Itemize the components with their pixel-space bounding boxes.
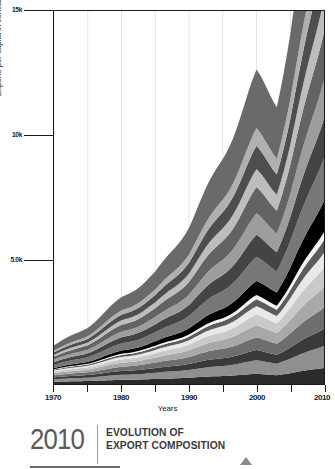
x-tick-1985 bbox=[155, 385, 156, 392]
triangle-up-icon bbox=[240, 457, 252, 465]
x-tick-label-1970: 1970 bbox=[33, 393, 73, 402]
x-axis-title: Years bbox=[0, 404, 335, 413]
x-tick-label-2000: 2000 bbox=[237, 393, 277, 402]
caption-divider bbox=[97, 425, 98, 464]
x-tick-2005 bbox=[291, 385, 292, 392]
x-tick-1970 bbox=[53, 385, 54, 392]
plot-area bbox=[53, 10, 325, 385]
y-axis-title: Exports per capita in constant 2010 US D… bbox=[0, 0, 3, 96]
export-composition-figure: Exports per capita in constant 2010 US D… bbox=[0, 0, 335, 469]
caption-text: EVOLUTION OF EXPORT COMPOSITION bbox=[106, 424, 234, 451]
y-tick-label-15k: 15k bbox=[4, 5, 22, 14]
x-tick-label-1990: 1990 bbox=[169, 393, 209, 402]
chart-figure: Exports per capita in constant 2010 US D… bbox=[0, 0, 335, 415]
x-tick-1980 bbox=[121, 385, 122, 392]
caption-year: 2010 bbox=[30, 424, 84, 454]
caption-line-1: EVOLUTION OF bbox=[106, 426, 225, 439]
y-tick-10k bbox=[24, 135, 53, 136]
x-tick-label-2010: 2010 bbox=[302, 393, 335, 402]
stacked-area-plot bbox=[54, 11, 324, 384]
x-tick-1995 bbox=[223, 385, 224, 392]
y-tick-15k bbox=[24, 10, 53, 11]
caption-block: 2010 EVOLUTION OF EXPORT COMPOSITION bbox=[30, 424, 335, 466]
x-tick-2010 bbox=[325, 385, 326, 392]
x-tick-2000 bbox=[257, 385, 258, 392]
caption-underline bbox=[30, 466, 120, 468]
x-tick-1990 bbox=[189, 385, 190, 392]
x-tick-1975 bbox=[87, 385, 88, 392]
y-tick-label-10k: 10k bbox=[4, 130, 22, 139]
y-tick-5k bbox=[24, 260, 53, 261]
x-tick-label-1980: 1980 bbox=[101, 393, 141, 402]
y-tick-label-5k: 5.0k bbox=[4, 255, 22, 264]
caption-line-2: EXPORT COMPOSITION bbox=[106, 439, 225, 452]
